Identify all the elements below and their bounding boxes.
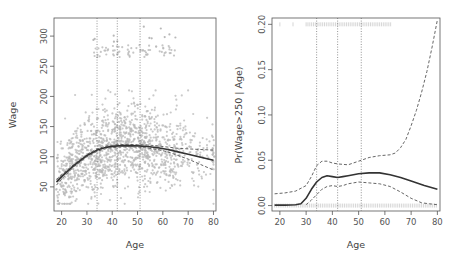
knot-lines xyxy=(317,18,362,211)
svg-text:0.10: 0.10 xyxy=(257,105,267,124)
y-axis-ticks: 50100150200250300 xyxy=(39,28,54,192)
svg-text:20: 20 xyxy=(274,217,285,227)
y-axis-label: Wage xyxy=(7,102,18,129)
svg-text:0.20: 0.20 xyxy=(257,15,267,34)
figure: 20304050607080 50100150200250300 Age Wag… xyxy=(0,0,454,262)
svg-text:300: 300 xyxy=(39,28,49,44)
svg-text:60: 60 xyxy=(379,217,390,227)
svg-text:250: 250 xyxy=(39,58,49,74)
svg-text:0.15: 0.15 xyxy=(257,60,267,79)
fit-curves xyxy=(275,20,438,205)
svg-text:20: 20 xyxy=(56,217,67,227)
plot-frame xyxy=(54,18,216,211)
x-axis-label: Age xyxy=(347,239,366,250)
svg-text:50: 50 xyxy=(353,217,364,227)
svg-text:150: 150 xyxy=(39,118,49,134)
svg-text:60: 60 xyxy=(157,217,168,227)
svg-text:0.00: 0.00 xyxy=(257,196,267,215)
svg-text:50: 50 xyxy=(132,217,143,227)
x-axis-ticks: 20304050607080 xyxy=(274,211,442,227)
svg-text:40: 40 xyxy=(107,217,118,227)
svg-text:70: 70 xyxy=(183,217,194,227)
scatter-points xyxy=(55,26,215,205)
svg-text:0.05: 0.05 xyxy=(257,151,267,170)
svg-text:100: 100 xyxy=(39,149,49,165)
svg-text:30: 30 xyxy=(81,217,92,227)
y-axis-label: Pr(Wage>250 | Age) xyxy=(233,66,244,163)
probability-panel: 20304050607080 0.000.050.100.150.20 Age … xyxy=(233,15,443,250)
x-axis-label: Age xyxy=(126,239,145,250)
svg-text:50: 50 xyxy=(39,181,49,192)
rug-marks xyxy=(275,22,437,207)
svg-text:80: 80 xyxy=(208,217,219,227)
x-axis-ticks: 20304050607080 xyxy=(56,211,219,227)
wage-scatter-panel: 20304050607080 50100150200250300 Age Wag… xyxy=(7,18,219,250)
svg-text:80: 80 xyxy=(432,217,443,227)
svg-text:40: 40 xyxy=(327,217,338,227)
svg-text:200: 200 xyxy=(39,88,49,104)
y-axis-ticks: 0.000.050.100.150.20 xyxy=(257,15,272,215)
svg-text:70: 70 xyxy=(406,217,417,227)
svg-text:30: 30 xyxy=(301,217,312,227)
